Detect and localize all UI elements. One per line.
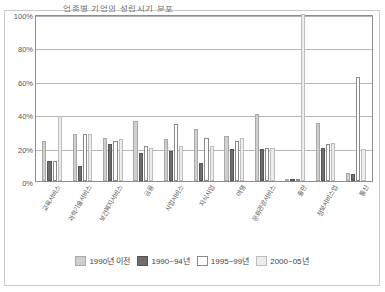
x-axis-tick-label: 보건복지서비스 bbox=[96, 183, 125, 223]
bar bbox=[78, 166, 82, 181]
chart-legend: 1990년 이전1990~94년1995~99년2000~05년 bbox=[5, 255, 379, 266]
bar bbox=[149, 148, 153, 181]
bar bbox=[58, 116, 62, 181]
y-axis-tick-label: 0% bbox=[0, 179, 33, 188]
bar bbox=[290, 179, 294, 181]
bar bbox=[119, 139, 123, 181]
bar bbox=[296, 179, 300, 181]
legend-label: 1995~99년 bbox=[211, 255, 249, 266]
legend-label: 1990~94년 bbox=[151, 255, 189, 266]
bar bbox=[88, 134, 92, 181]
bar-group bbox=[280, 16, 310, 181]
bar-group bbox=[98, 16, 128, 181]
bar bbox=[204, 138, 208, 181]
y-axis-tick-label: 20% bbox=[0, 146, 33, 155]
bar-group bbox=[310, 16, 340, 181]
x-axis-tick-label: 교육서비스 bbox=[40, 183, 63, 213]
bar bbox=[73, 134, 77, 181]
x-axis-tick-label: 통신 bbox=[356, 183, 370, 198]
bar bbox=[210, 146, 214, 181]
bar bbox=[169, 151, 173, 181]
chart-container: 업종별 기업의 설립시기 분포 0%20%40%60%80%100% 교육서비스… bbox=[4, 10, 380, 286]
x-axis-tick-label: 출판 bbox=[294, 183, 308, 198]
bar bbox=[139, 153, 143, 181]
bar bbox=[199, 163, 203, 181]
legend-swatch bbox=[197, 256, 208, 266]
bar-group bbox=[158, 16, 188, 181]
bar bbox=[316, 123, 320, 181]
bar bbox=[144, 146, 148, 181]
bar bbox=[321, 148, 325, 181]
x-axis-tick-label: 정보서비스업 bbox=[314, 183, 340, 218]
bar bbox=[361, 149, 365, 181]
bar bbox=[83, 134, 87, 181]
x-axis-tick-label: 문화관광서비스 bbox=[249, 183, 278, 223]
y-axis-tick-label: 60% bbox=[0, 79, 33, 88]
bar bbox=[108, 144, 112, 181]
bar bbox=[270, 148, 274, 181]
bar bbox=[224, 136, 228, 181]
bar bbox=[103, 138, 107, 181]
bar-group bbox=[189, 16, 219, 181]
bar bbox=[301, 14, 305, 181]
bar bbox=[240, 138, 244, 181]
bar-group bbox=[341, 16, 371, 181]
y-axis-tick-label: 100% bbox=[0, 12, 33, 21]
legend-swatch bbox=[75, 256, 86, 266]
legend-item[interactable]: 1995~99년 bbox=[197, 255, 249, 266]
legend-item[interactable]: 1990~94년 bbox=[137, 255, 189, 266]
bar-group bbox=[128, 16, 158, 181]
bar bbox=[194, 129, 198, 181]
bar bbox=[285, 179, 289, 181]
bar-group bbox=[219, 16, 249, 181]
bar bbox=[346, 173, 350, 181]
bar-group bbox=[37, 16, 67, 181]
y-axis-tick-label: 80% bbox=[0, 45, 33, 54]
y-axis-tick-label: 40% bbox=[0, 112, 33, 121]
bar-series-container bbox=[36, 16, 372, 181]
bar bbox=[326, 144, 330, 181]
x-axis-labels: 교육서비스과학기술서비스보건복지서비스금융사업서비스지식사업여행문화관광서비스출… bbox=[35, 183, 373, 245]
bar bbox=[174, 124, 178, 181]
bar-group bbox=[250, 16, 280, 181]
x-axis-tick-label: 사업서비스 bbox=[163, 183, 186, 213]
legend-swatch bbox=[256, 256, 267, 266]
legend-label: 1990년 이전 bbox=[89, 255, 130, 266]
bar bbox=[164, 139, 168, 181]
chart-title: 업종별 기업의 설립시기 분포 bbox=[63, 5, 174, 12]
bar bbox=[235, 141, 239, 181]
bar bbox=[265, 148, 269, 181]
bar-group bbox=[67, 16, 97, 181]
x-axis-tick-label: 금융 bbox=[141, 183, 155, 198]
bar bbox=[230, 149, 234, 181]
bar bbox=[47, 161, 51, 181]
bar bbox=[351, 174, 355, 181]
x-axis-tick-label: 여행 bbox=[233, 183, 247, 198]
bar bbox=[255, 114, 259, 181]
legend-item[interactable]: 1990년 이전 bbox=[75, 255, 130, 266]
bar bbox=[113, 141, 117, 181]
legend-swatch bbox=[137, 256, 148, 266]
bar bbox=[53, 161, 57, 181]
x-axis-tick-label: 지식사업 bbox=[196, 183, 216, 208]
x-axis-tick-label: 과학기술서비스 bbox=[65, 183, 94, 223]
bar bbox=[331, 143, 335, 181]
bar bbox=[260, 149, 264, 181]
bar bbox=[42, 141, 46, 181]
bar bbox=[179, 146, 183, 181]
legend-item[interactable]: 2000~05년 bbox=[256, 255, 308, 266]
bar bbox=[356, 77, 360, 181]
bar bbox=[133, 121, 137, 181]
plot-area: 0%20%40%60%80%100% bbox=[35, 15, 373, 182]
legend-label: 2000~05년 bbox=[270, 255, 308, 266]
